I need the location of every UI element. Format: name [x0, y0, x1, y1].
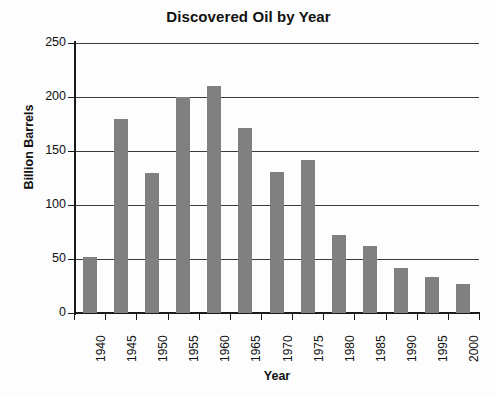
x-axis-tick	[261, 314, 262, 320]
bar	[176, 97, 190, 313]
x-axis-tick-label: 1995	[437, 335, 449, 362]
y-axis-tick-label: 250	[26, 36, 66, 49]
bar	[301, 160, 315, 313]
bar	[207, 86, 221, 313]
x-axis-tick-label: 1985	[375, 335, 387, 362]
x-axis-tick	[105, 314, 106, 320]
bar	[145, 173, 159, 313]
y-axis-tick-labels: 050100150200250	[18, 0, 66, 397]
x-axis-tick	[292, 314, 293, 320]
bar-chart: Discovered Oil by Year Billion Barrels 0…	[0, 0, 497, 397]
bar	[363, 246, 377, 313]
x-axis-tick-label: 1950	[157, 335, 169, 362]
y-axis-tick-label: 100	[26, 198, 66, 211]
y-axis-tick-label: 50	[26, 252, 66, 265]
chart-title: Discovered Oil by Year	[0, 8, 497, 25]
x-axis-title: Year	[74, 369, 480, 383]
y-axis-tick-label: 150	[26, 144, 66, 157]
x-axis-tick	[354, 314, 355, 320]
x-axis-tick	[74, 314, 75, 320]
x-axis-tick-label: 1960	[219, 335, 231, 362]
y-axis-tick-label: 0	[26, 306, 66, 319]
x-axis-tick	[199, 314, 200, 320]
x-axis-tick	[168, 314, 169, 320]
bar	[114, 119, 128, 313]
x-axis-tick	[136, 314, 137, 320]
bar	[394, 268, 408, 313]
x-axis-tick	[479, 314, 480, 320]
bar	[456, 284, 470, 313]
x-axis-tick-label: 1965	[250, 335, 262, 362]
bar	[425, 277, 439, 313]
x-axis-tick-label: 1940	[95, 335, 107, 362]
x-axis-tick-label: 2000	[468, 335, 480, 362]
x-axis-tick-label: 1980	[344, 335, 356, 362]
bar	[83, 257, 97, 313]
bars-series	[74, 43, 479, 313]
x-axis-tick	[230, 314, 231, 320]
y-axis-tick-label: 200	[26, 90, 66, 103]
x-axis-tick-label: 1990	[406, 335, 418, 362]
bar	[332, 235, 346, 313]
x-axis-tick-label: 1970	[282, 335, 294, 362]
x-axis-tick-label: 1945	[126, 335, 138, 362]
bar	[270, 172, 284, 314]
x-axis-tick	[448, 314, 449, 320]
x-axis-tick	[323, 314, 324, 320]
bar	[238, 128, 252, 313]
x-axis-tick-label: 1955	[188, 335, 200, 362]
x-axis-tick	[417, 314, 418, 320]
x-axis-tick	[386, 314, 387, 320]
x-axis-tick-label: 1975	[313, 335, 325, 362]
